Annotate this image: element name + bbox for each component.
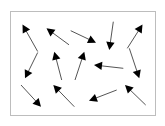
arrow-shaft — [101, 66, 123, 69]
arrow-shaft — [26, 31, 38, 52]
arrow-shaft — [21, 85, 36, 102]
arrow-icon — [21, 85, 41, 107]
arrow-icon — [89, 90, 117, 102]
arrow-shaft — [127, 30, 138, 48]
arrow-icon — [75, 52, 86, 80]
arrowhead-icon — [133, 69, 141, 78]
arrowhead-icon — [106, 41, 114, 50]
arrow-icon — [127, 25, 142, 49]
arrow-icon — [106, 22, 114, 50]
arrow-shaft — [75, 58, 82, 80]
arrow-shaft — [52, 32, 69, 44]
arrowhead-icon — [78, 52, 86, 61]
arrow-icon — [47, 28, 70, 45]
arrow-shaft — [56, 58, 62, 80]
arrowhead-icon — [52, 52, 60, 61]
arrow-icon — [71, 31, 96, 43]
arrow-icon — [25, 53, 38, 79]
arrow-icon — [94, 62, 123, 70]
arrow-icon — [53, 85, 74, 107]
arrow-shaft — [130, 90, 146, 105]
arrow-icon — [23, 25, 38, 52]
arrow-shaft — [58, 90, 74, 107]
arrow-field-diagram — [0, 0, 165, 126]
arrow-icon — [52, 52, 61, 80]
arrow-shaft — [71, 31, 90, 40]
arrow-shaft — [96, 90, 117, 98]
arrowhead-icon — [94, 62, 102, 70]
arrow-shaft — [110, 22, 113, 43]
arrow-shaft — [28, 53, 38, 73]
arrowhead-icon — [47, 28, 56, 36]
arrow-icon — [125, 85, 146, 105]
arrow-group — [21, 22, 146, 107]
arrow-shaft — [129, 48, 137, 71]
arrowhead-icon — [135, 25, 143, 34]
arrow-icon — [129, 48, 140, 78]
